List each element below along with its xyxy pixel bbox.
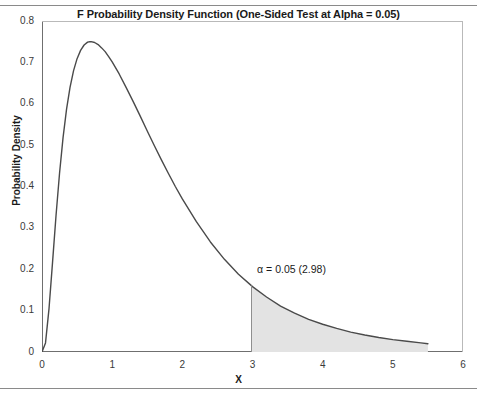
- chart-root: F Probability Density Function (One-Side…: [0, 0, 477, 394]
- x-tick-label: 5: [373, 359, 413, 370]
- shaded-tail-region: [251, 285, 428, 352]
- y-tick-label: 0.7: [0, 56, 34, 67]
- chart-title: F Probability Density Function (One-Side…: [0, 8, 477, 20]
- y-tick-label: 0.4: [0, 180, 34, 191]
- x-tick-label: 4: [303, 359, 343, 370]
- y-tick-label: 0.5: [0, 139, 34, 150]
- top-divider-rule: [0, 5, 477, 6]
- x-tick-label: 2: [162, 359, 202, 370]
- y-axis-label: Probability Density: [11, 101, 22, 221]
- x-tick-label: 3: [233, 359, 273, 370]
- x-tick-label: 1: [92, 359, 132, 370]
- y-tick-label: 0.6: [0, 97, 34, 108]
- density-curve: [42, 42, 428, 352]
- y-tick-label: 0.1: [0, 304, 34, 315]
- bottom-divider-rule: [0, 388, 477, 389]
- y-tick-label: 0.8: [0, 15, 34, 26]
- x-axis-label: X: [0, 374, 477, 385]
- x-tick-label: 6: [443, 359, 477, 370]
- y-tick-label: 0.3: [0, 221, 34, 232]
- plot-svg: [42, 21, 463, 352]
- alpha-annotation: α = 0.05 (2.98): [257, 263, 326, 275]
- x-tick-label: 0: [22, 359, 62, 370]
- y-tick-label: 0.2: [0, 263, 34, 274]
- y-tick-label: 0: [0, 346, 34, 357]
- plot-area: [42, 21, 463, 352]
